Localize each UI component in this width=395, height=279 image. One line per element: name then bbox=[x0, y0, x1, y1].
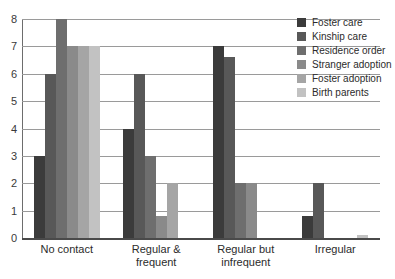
legend-item: Birth parents bbox=[297, 87, 392, 98]
bar-chart: 012345678 No contactRegular &frequentReg… bbox=[0, 0, 395, 279]
legend-label: Residence order bbox=[312, 45, 385, 56]
bar bbox=[56, 19, 67, 238]
legend-swatch-icon bbox=[297, 74, 306, 83]
bar bbox=[224, 57, 235, 238]
bar bbox=[213, 46, 224, 238]
bar bbox=[246, 183, 257, 238]
legend-item: Stranger adoption bbox=[297, 59, 392, 70]
bar-group bbox=[22, 19, 112, 238]
x-axis-labels: No contactRegular &frequentRegular butin… bbox=[22, 243, 380, 269]
bar bbox=[302, 216, 313, 238]
bar bbox=[313, 183, 324, 238]
y-axis-tick-label: 4 bbox=[11, 123, 17, 135]
y-axis-tick-label: 2 bbox=[11, 177, 17, 189]
bar bbox=[123, 129, 134, 239]
legend: Foster careKinship careResidence orderSt… bbox=[297, 17, 392, 98]
bar bbox=[235, 183, 246, 238]
y-axis-tick-label: 8 bbox=[11, 13, 17, 25]
legend-swatch-icon bbox=[297, 32, 306, 41]
bar bbox=[145, 156, 156, 238]
legend-label: Foster care bbox=[312, 17, 363, 28]
legend-swatch-icon bbox=[297, 46, 306, 55]
y-axis-tick-label: 1 bbox=[11, 205, 17, 217]
legend-item: Residence order bbox=[297, 45, 392, 56]
legend-label: Birth parents bbox=[312, 87, 369, 98]
legend-swatch-icon bbox=[297, 18, 306, 27]
legend-label: Kinship care bbox=[312, 31, 367, 42]
y-axis-tick-label: 5 bbox=[11, 95, 17, 107]
y-axis-tick-label: 3 bbox=[11, 150, 17, 162]
bar bbox=[134, 74, 145, 238]
bar bbox=[156, 216, 167, 238]
x-axis-tick-label: Irregular bbox=[291, 243, 381, 269]
legend-label: Foster adoption bbox=[312, 73, 382, 84]
legend-item: Foster care bbox=[297, 17, 392, 28]
y-axis-tick-label: 0 bbox=[11, 232, 17, 244]
x-axis-line bbox=[22, 238, 380, 240]
y-axis-tick-label: 7 bbox=[11, 40, 17, 52]
bar bbox=[357, 235, 368, 238]
bar bbox=[78, 46, 89, 238]
legend-item: Kinship care bbox=[297, 31, 392, 42]
x-axis-tick-label: No contact bbox=[22, 243, 112, 269]
x-axis-tick-label: Regular butinfrequent bbox=[201, 243, 291, 269]
legend-swatch-icon bbox=[297, 88, 306, 97]
legend-item: Foster adoption bbox=[297, 73, 392, 84]
bar-group bbox=[201, 19, 291, 238]
bar bbox=[89, 46, 100, 238]
legend-label: Stranger adoption bbox=[312, 59, 392, 70]
bar-group bbox=[112, 19, 202, 238]
x-axis-tick-label: Regular &frequent bbox=[112, 243, 202, 269]
legend-swatch-icon bbox=[297, 60, 306, 69]
bar bbox=[67, 46, 78, 238]
bar bbox=[167, 183, 178, 238]
bar bbox=[45, 74, 56, 238]
bar bbox=[34, 156, 45, 238]
y-axis-tick-label: 6 bbox=[11, 68, 17, 80]
